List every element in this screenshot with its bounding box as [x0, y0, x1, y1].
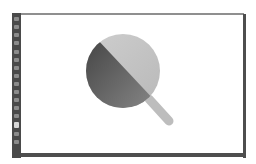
tools-panel: [12, 13, 21, 158]
document-frame-bottom: [21, 153, 246, 157]
eyedropper-tool-icon[interactable]: [14, 58, 19, 62]
lasso-tool-icon[interactable]: [14, 33, 19, 37]
magic-wand-tool-icon[interactable]: [14, 41, 19, 45]
brush-tool-icon[interactable]: [14, 66, 19, 70]
magnifying-glass-artwork: [21, 15, 243, 153]
marquee-tool-icon[interactable]: [14, 25, 19, 29]
zoom-tool-icon[interactable]: [14, 140, 19, 144]
hand-tool-icon[interactable]: [14, 132, 19, 136]
handle-shape: [149, 99, 169, 121]
dodge-tool-icon[interactable]: [14, 98, 19, 102]
gradient-tool-icon[interactable]: [14, 90, 19, 94]
type-tool-icon[interactable]: [14, 114, 19, 118]
document-frame-right: [243, 14, 246, 158]
move-tool-icon[interactable]: [14, 17, 19, 21]
crop-tool-icon[interactable]: [14, 50, 19, 54]
shape-tool-icon[interactable]: [14, 122, 19, 128]
stamp-tool-icon[interactable]: [14, 74, 19, 78]
eraser-tool-icon[interactable]: [14, 82, 19, 86]
pen-tool-icon[interactable]: [14, 106, 19, 110]
document-canvas[interactable]: [21, 15, 243, 153]
